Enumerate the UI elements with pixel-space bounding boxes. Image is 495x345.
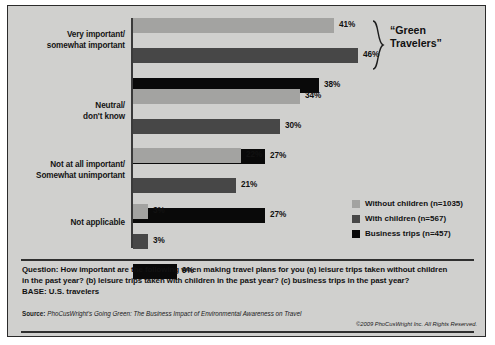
legend-label: With children (n=567): [365, 214, 446, 223]
bottom-rule: [21, 331, 474, 333]
category-label: Not applicable: [70, 218, 125, 229]
bar-value-label: 41%: [339, 20, 355, 29]
bar-with-children: [133, 234, 148, 249]
bar-without-children: [133, 148, 241, 163]
footer-question-block: Question: How important are the followin…: [22, 264, 477, 296]
footer-divider: [21, 259, 474, 261]
copyright-text: ©2009 PhoCusWright Inc. All Rights Reser…: [356, 321, 477, 327]
legend-label: Business trips (n=457): [365, 229, 451, 238]
bar-value-label: 22%: [246, 150, 262, 159]
bar-value-label: 3%: [153, 206, 165, 215]
legend-item-with-children: With children (n=567): [352, 211, 463, 226]
category-label-line: don't know: [83, 112, 125, 123]
annotation-line: “Green: [390, 24, 442, 37]
bar-value-label: 30%: [285, 121, 301, 130]
source-label: Source:: [22, 310, 45, 317]
bar-without-children: [133, 89, 300, 104]
category-label-line: Not applicable: [70, 218, 125, 229]
footer-source-block: Source: PhoCusWright's Going Green: The …: [22, 310, 477, 317]
source-line: Source: PhoCusWright's Going Green: The …: [22, 310, 477, 317]
bar-value-label: 34%: [305, 91, 321, 100]
category-label-line: Neutral/: [83, 101, 125, 112]
annotation-line: Travelers”: [390, 37, 442, 50]
question-line-2: in the past year? (b) leisure trips take…: [22, 275, 477, 286]
legend-item-business-trips: Business trips (n=457): [352, 226, 463, 241]
bar-with-children: [133, 119, 280, 134]
bar-value-label: 3%: [153, 236, 165, 245]
bar-without-children: [133, 18, 334, 33]
category-label: Very important/ somewhat important: [47, 30, 125, 51]
bar-value-label: 38%: [324, 80, 340, 89]
chart-legend: Without children (n=1035) With children …: [352, 196, 463, 241]
category-label-line: somewhat important: [47, 41, 125, 52]
bar-with-children: [133, 178, 236, 193]
question-label: Question:: [22, 265, 58, 274]
category-label: Not at all important/ Somewhat unimporta…: [36, 160, 125, 181]
question-text: How important are the following when mak…: [61, 265, 448, 274]
legend-label: Without children (n=1035): [365, 199, 463, 208]
bar-with-children: [133, 48, 358, 63]
curly-brace-icon: [372, 20, 385, 70]
bar-value-label: 21%: [241, 180, 257, 189]
base-text: BASE: U.S. travelers: [22, 287, 477, 296]
source-text: PhoCusWright's Going Green: The Business…: [47, 310, 301, 317]
category-label-line: Somewhat unimportant: [36, 171, 125, 182]
category-label-line: Very important/: [47, 30, 125, 41]
bar-group-neutral: Neutral/ don't know 34% 30% 27%: [8, 89, 487, 146]
bar-without-children: [133, 204, 148, 219]
legend-item-without-children: Without children (n=1035): [352, 196, 463, 211]
legend-swatch-icon: [352, 230, 360, 238]
question-line-1: Question: How important are the followin…: [22, 264, 477, 275]
green-travelers-annotation: “Green Travelers”: [390, 24, 442, 50]
chart-frame: Very important/ somewhat important 41% 4…: [7, 5, 486, 337]
legend-swatch-icon: [352, 215, 360, 223]
legend-swatch-icon: [352, 200, 360, 208]
category-label: Neutral/ don't know: [83, 101, 125, 122]
category-label-line: Not at all important/: [36, 160, 125, 171]
